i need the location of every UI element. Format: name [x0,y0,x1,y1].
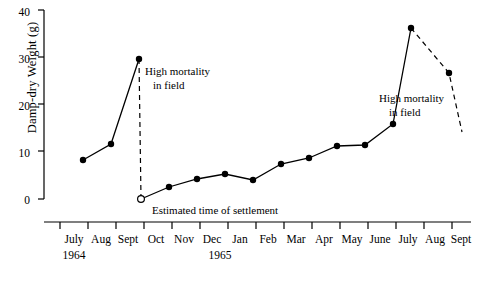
data-line-dashed-drop [139,59,141,198]
data-point-open-marker-settlement [138,196,145,203]
chart-container: Damp-dry Weight (g) 40 30 20 10 0 July A… [0,0,481,283]
chart-plot [0,0,481,283]
x-ticks [60,222,452,229]
data-line-dashed-decline [411,28,462,132]
data-line-segment-2 [141,28,411,199]
